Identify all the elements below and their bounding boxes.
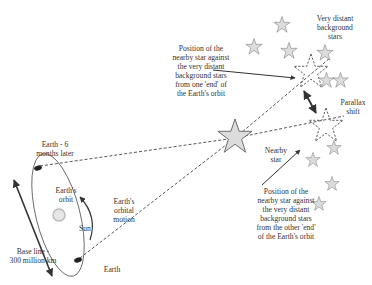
nearby-star-label: Nearby star [258, 146, 294, 164]
background-stars [246, 16, 348, 210]
earth-label: Earth [98, 265, 126, 274]
apparent-position-one-star-icon [294, 54, 328, 87]
orbital-motion-label: Earth's orbital motion [106, 197, 142, 224]
background-star-icon [327, 140, 341, 154]
position-other-label: Position of the nearby star against the … [240, 187, 332, 241]
parallax-shift-label: Parallax shift [334, 98, 372, 116]
sun-icon [53, 209, 65, 221]
background-star-icon [281, 42, 297, 58]
parallax-diagram: Earth - 6 months later Earth's orbit Sun… [0, 0, 372, 285]
sun-label: Sun [76, 224, 94, 233]
background-star-icon [333, 72, 348, 87]
background-star-icon [317, 44, 333, 60]
distant-stars-label: Very distant background stars [304, 14, 366, 41]
parallax-shift-arrow [304, 91, 316, 113]
background-star-icon [306, 152, 320, 166]
background-star-icon [274, 16, 290, 32]
position-one-label: Position of the nearby star against the … [158, 44, 244, 98]
earths-orbit-label: Earth's orbit [48, 186, 84, 204]
baseline-label: Base line - 300 million km [2, 247, 64, 265]
earth-later-label: Earth - 6 months later [30, 140, 80, 158]
background-star-icon [246, 38, 262, 54]
